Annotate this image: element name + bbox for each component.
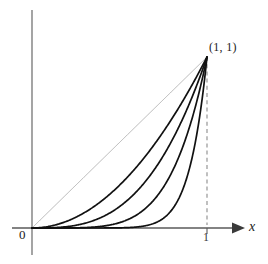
point-annotation-label: (1, 1): [209, 41, 237, 53]
curve-y-equals-x: [32, 57, 207, 228]
origin-label: 0: [19, 228, 26, 241]
x-axis-label: x: [249, 220, 255, 234]
x-axis-arrowhead-icon: [232, 223, 245, 234]
x-tick-label-one: 1: [203, 231, 209, 243]
power-functions-figure: 0 1 x (1, 1): [0, 0, 268, 264]
